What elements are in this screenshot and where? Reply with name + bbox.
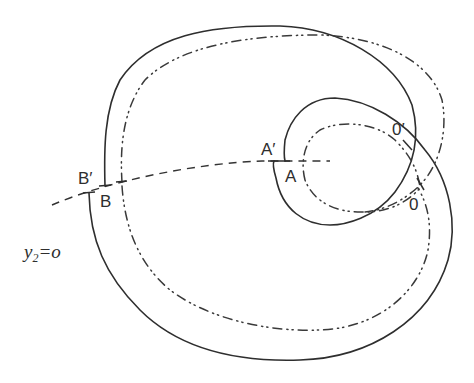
tick-b bbox=[83, 192, 95, 193]
label-b-prime: B′ bbox=[78, 169, 93, 188]
label-o: 0 bbox=[409, 195, 418, 214]
label-a-prime: A′ bbox=[261, 140, 276, 159]
tick-o-prime bbox=[403, 140, 412, 150]
diagram-canvas: B′ B A′ A 0′ 0 y2=o bbox=[0, 0, 474, 383]
label-a: A bbox=[285, 167, 297, 186]
label-b: B bbox=[100, 192, 111, 211]
solid-curve-upper bbox=[105, 26, 416, 225]
equation-label: y2=o bbox=[22, 241, 61, 265]
tick-dash-dot-b bbox=[116, 181, 127, 182]
tick-b-prime bbox=[99, 185, 111, 186]
label-o-prime: 0′ bbox=[392, 120, 405, 139]
